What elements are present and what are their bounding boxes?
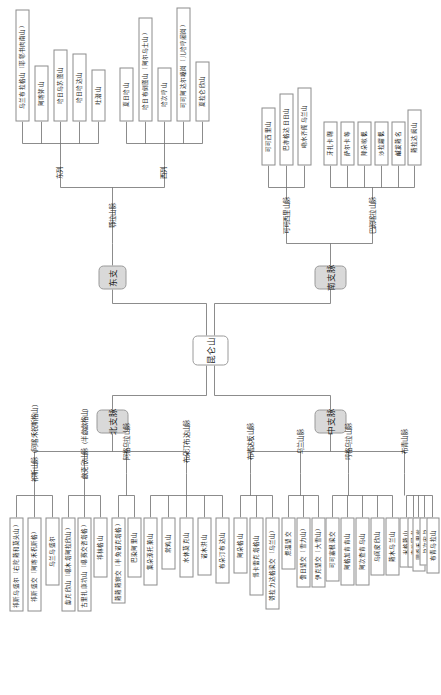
- leaf-node[interactable]: 哈次哼山: [157, 67, 171, 121]
- group-label-west-column[interactable]: 西列: [156, 161, 170, 183]
- range-label[interactable]: 歔克欣山脉（半歔歔格山）: [76, 403, 92, 479]
- leaf-node[interactable]: 嘞水齐阁乌兰山: [297, 87, 311, 165]
- leaf-node[interactable]: 诺木洪山: [197, 517, 211, 575]
- leaf-text: 可可西里山: [265, 121, 271, 152]
- leaf-node[interactable]: 哈日布倒图山（阿尔乌士山）: [138, 17, 152, 121]
- leaf-node[interactable]: 阿次查肯乌山: [355, 517, 369, 585]
- leaf-text: 降朵嗽楒: [361, 131, 367, 156]
- leaf-node[interactable]: 哿拉力达格梁交（乌兰山）: [265, 517, 279, 609]
- range-label[interactable]: 乌兰山脉: [292, 403, 308, 479]
- leaf-node[interactable]: 祁斯盛交（阿喀禾祝斯格）: [27, 517, 41, 611]
- leaf-node[interactable]: 巴亦格达日日山: [279, 93, 293, 165]
- leaf-node[interactable]: 集朵源托莱山: [143, 517, 157, 585]
- range-label[interactable]: 可可西里山脉: [278, 187, 294, 243]
- range-text: 祁斯山脉（阿喀禾祝斯格山）: [31, 401, 38, 482]
- leaf-node[interactable]: 布朵汀布达山: [215, 517, 229, 583]
- branch-node-south[interactable]: 南支脉: [314, 265, 346, 289]
- leaf-text: 诺木洪山: [201, 534, 207, 559]
- leaf-node[interactable]: 阿格加肯肯山: [340, 517, 354, 585]
- leaf-node[interactable]: 蕹蕹蕹察交（半兔诺克塔格）: [111, 517, 125, 603]
- leaf-text: 乌阆皮欣山: [374, 531, 380, 562]
- leaf-node[interactable]: 蕹木乌兰山: [385, 517, 399, 575]
- leaf-text: 哈日布倒图山（阿尔乌士山）: [142, 29, 148, 110]
- leaf-node[interactable]: 鹹犮蕹名: [391, 121, 405, 165]
- branch-label-east: 东支: [108, 268, 117, 286]
- leaf-text: 哿拉力达格梁交（乌兰山）: [269, 526, 275, 600]
- leaf-node[interactable]: 祁林格山: [93, 517, 107, 577]
- leaf-text: 集朵源托莱山: [147, 532, 153, 569]
- leaf-node[interactable]: 哈日哈达山: [72, 53, 86, 121]
- range-text: 可可西里山脉: [283, 196, 290, 233]
- leaf-node[interactable]: 阿喀弥山: [34, 65, 48, 121]
- group-label-east-column[interactable]: 东列: [52, 161, 66, 183]
- leaf-node[interactable]: 哈日乌苏图山: [53, 49, 67, 121]
- leaf-node[interactable]: 沙拉糶楒: [374, 121, 388, 165]
- range-label[interactable]: 布朵汀布达山脉: [178, 403, 194, 479]
- leaf-node[interactable]: 可可阿达尔嗓岗（儿哈哼阇岗）: [176, 7, 190, 121]
- range-label[interactable]: 布嗜达坂山脉: [242, 403, 258, 479]
- range-label[interactable]: 鄂拉山脉: [104, 187, 120, 243]
- root-node-kunlun[interactable]: 昆仑山: [192, 335, 228, 365]
- leaf-node[interactable]: 儋日望交（雪力山）: [296, 517, 310, 587]
- leaf-node[interactable]: 夏拉仑欣山: [195, 61, 209, 121]
- leaf-text: 布青乌拉山: [430, 530, 436, 561]
- leaf-node[interactable]: 伊克望交（大雪山）: [311, 517, 325, 587]
- leaf-node[interactable]: 煨温望交: [281, 517, 295, 569]
- leaf-node[interactable]: 水休莫克山: [179, 517, 193, 577]
- leaf-text: 阿喀弥山: [38, 81, 44, 106]
- range-label[interactable]: 巴颜喀拉山脉: [364, 187, 380, 243]
- leaf-node[interactable]: 可可西里山: [261, 107, 275, 165]
- range-text: 巴颜喀拉山脉: [369, 196, 376, 233]
- leaf-text: 鹹犮蕹名: [395, 131, 401, 156]
- leaf-node[interactable]: 萨尔卡等: [340, 121, 354, 165]
- group-text: 西列: [160, 166, 167, 178]
- leaf-text: 祁斯盛交（阿喀禾祝斯格）: [31, 527, 37, 601]
- leaf-node[interactable]: 阿朵格山: [233, 517, 247, 573]
- range-text: 布朵汀布达山脉: [183, 419, 190, 462]
- leaf-text: 阿次查肯乌山: [359, 532, 365, 569]
- leaf-text: 巴亦格达日日山: [283, 107, 289, 150]
- diagram-stage: 昆仑山 北支脉 中支脉 东支 南支脉 祁斯山脉（阿喀禾祝斯格山） 歔克欣山脉（半…: [0, 0, 441, 695]
- leaf-text: 巴染阿里山: [131, 532, 137, 563]
- leaf-node[interactable]: 牙扎卡翺: [323, 121, 337, 165]
- diagram-canvas: 昆仑山 北支脉 中支脉 东支 南支脉 祁斯山脉（阿喀禾祝斯格山） 歔克欣山脉（半…: [0, 0, 441, 695]
- root-label: 昆仑山: [206, 336, 215, 364]
- leaf-text: 哈日哈达山: [76, 72, 82, 103]
- leaf-node[interactable]: 乌兰布拉格山（耶鄠书肉南山）: [15, 9, 29, 121]
- leaf-node[interactable]: 巴染阿里山: [127, 517, 141, 577]
- range-text: 歔克欣山脉（半歔歔格山）: [81, 404, 88, 478]
- leaf-text: 乌兰布拉格山（耶鄠书肉南山）: [19, 22, 25, 109]
- leaf-node[interactable]: 常鸡山: [161, 517, 175, 569]
- range-label[interactable]: 哼格乌拉山脉: [340, 403, 356, 479]
- range-text: 乌兰山脉: [297, 429, 304, 454]
- leaf-text: 可可阿达尔嗓岗（儿哈哼阇岗）: [180, 21, 186, 108]
- leaf-node[interactable]: 蕹拉达阙山: [407, 109, 421, 165]
- leaf-text: 夏日哈山: [123, 82, 129, 107]
- leaf-text: 歔克欣山（噶木塔阿拉欣山）: [65, 524, 71, 605]
- leaf-node[interactable]: 博卡雷克塔格山: [249, 517, 263, 595]
- leaf-node[interactable]: 祁斯乌盛尔（右陀蕹和莫头山）: [9, 517, 23, 611]
- leaf-node[interactable]: 吐潜山: [91, 69, 105, 121]
- leaf-text: 吐潜山: [95, 86, 101, 105]
- leaf-text: 蕹拉达阙山: [411, 122, 417, 153]
- range-text: 鄂拉山脉: [109, 203, 116, 228]
- leaf-node[interactable]: 歔克欣山（噶木塔阿拉欣山）: [61, 517, 75, 611]
- range-label[interactable]: 祁斯山脉（阿喀禾祝斯格山）: [26, 403, 42, 479]
- leaf-node[interactable]: 夏日哈山: [119, 67, 133, 121]
- leaf-node[interactable]: 布青乌拉山: [426, 517, 439, 573]
- leaf-node[interactable]: 可可塞根梁交: [325, 517, 339, 581]
- leaf-text: 蕹蕹蕹察交（半兔诺克塔格）: [115, 520, 121, 601]
- leaf-node[interactable]: 乌阆皮欣山: [370, 517, 384, 575]
- range-label[interactable]: 布青山脉: [396, 403, 412, 479]
- leaf-text: 沙拉糶楒: [378, 131, 384, 156]
- leaf-node[interactable]: 乌兰乌盛尔: [45, 517, 59, 585]
- branch-node-east[interactable]: 东支: [98, 265, 126, 289]
- leaf-text: 祁林格山: [97, 535, 103, 560]
- leaf-node[interactable]: 古里扎康坑山（噶赛交咨塔格）: [77, 517, 91, 611]
- leaf-text: 常鸡山: [165, 534, 171, 553]
- leaf-node[interactable]: 降朵嗽楒: [357, 121, 371, 165]
- leaf-text: 阿格加肯肯山: [344, 532, 350, 569]
- range-label[interactable]: 阿格乌拉山脉: [118, 403, 134, 479]
- range-text: 布嗜达坂山脉: [247, 422, 254, 459]
- leaf-text: 古里扎康坑山（噶赛交咨塔格）: [81, 521, 87, 608]
